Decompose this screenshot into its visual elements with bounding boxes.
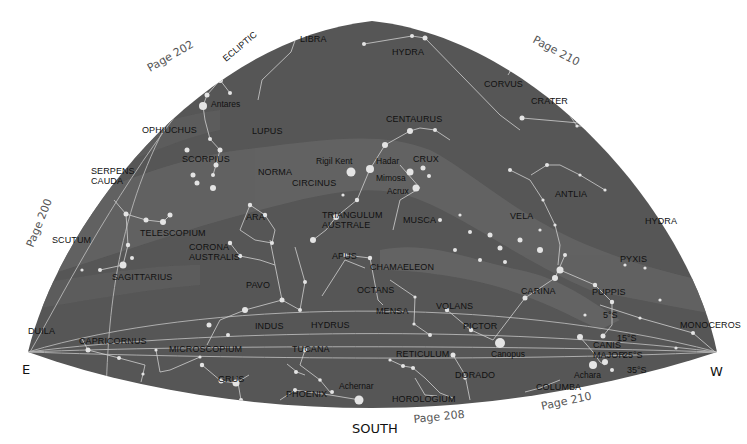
constellation-label: APUS: [332, 251, 357, 261]
direction-west-label: W: [710, 364, 723, 379]
constellation-label: TUCANA: [292, 344, 330, 354]
page-reference-label: Page 208: [413, 408, 465, 426]
constellation-label: SCORPIUS: [182, 154, 230, 164]
constellation-label: PHOENIX: [286, 389, 327, 399]
ecliptic-label: ECLIPTIC: [221, 29, 259, 63]
constellation-label: SAGITTARIUS: [112, 272, 172, 282]
star-name-label: Antares: [211, 99, 240, 109]
constellation-label: CHAMAELEON: [370, 262, 434, 272]
constellation-label: MENSA: [376, 306, 409, 316]
direction-east-label: E: [22, 362, 30, 377]
constellation-label: HYDRUS: [311, 320, 350, 330]
star-name-label: Acrux: [387, 186, 409, 196]
constellation-label: CIRCINUS: [292, 178, 336, 188]
page-reference-label: Page 200: [24, 197, 55, 249]
constellation-label: TELESCOPIUM: [140, 228, 206, 238]
constellation-label: DUILA: [28, 326, 55, 336]
constellation-label: OCTANS: [357, 285, 394, 295]
constellation-label: VOLANS: [436, 301, 473, 311]
constellation-label: MICROSCOPIUM: [169, 344, 242, 354]
star-name-label: Canopus: [491, 349, 525, 359]
star-name-label: Mimosa: [376, 173, 406, 183]
declination-label: 5°S: [603, 310, 618, 320]
constellation-label: OPHIUCHUS: [142, 125, 197, 135]
constellation-label: RETICULUM: [396, 349, 449, 359]
constellation-label: HOROLOGIUM: [392, 394, 456, 404]
constellation-label: LUPUS: [252, 126, 283, 136]
constellation-label: LIBRA: [300, 34, 327, 44]
constellation-label: SERPENS: [91, 166, 135, 176]
declination-label: 25°S: [623, 350, 643, 360]
constellation-label: PUPPIS: [592, 287, 626, 297]
constellation-label: CORONA: [189, 242, 229, 252]
constellation-label: ARA: [246, 212, 265, 222]
constellation-label: HYDRA: [645, 216, 677, 226]
constellation-label: SCUTUM: [52, 235, 91, 245]
constellation-label: CAPRICORNUS: [79, 336, 147, 346]
constellation-label: CRATER: [531, 96, 568, 106]
constellation-label: PICTOR: [463, 321, 498, 331]
constellation-label: MONOCEROS: [680, 320, 741, 330]
declination-label: 15°S: [617, 333, 637, 343]
constellation-label: ANTLIA: [555, 189, 587, 199]
declination-label: 35°S: [627, 365, 647, 375]
constellation-label: CAUDA: [91, 176, 123, 186]
page-reference-label: Page 210: [531, 33, 582, 68]
constellation-label: GRUS: [218, 374, 244, 384]
constellation-label: VELA: [510, 211, 533, 221]
constellation-label: NORMA: [258, 167, 292, 177]
constellation-label: TRIANGULUM: [322, 210, 383, 220]
star-name-label: Achernar: [339, 381, 374, 391]
constellation-label: HYDRA: [392, 47, 424, 57]
constellation-label: CENTAURUS: [386, 114, 442, 124]
star-name-label: Rigil Kent: [316, 156, 353, 166]
constellation-label: MAJOR: [593, 350, 625, 360]
constellation-label: PYXIS: [620, 254, 647, 264]
constellation-label: PAVO: [246, 280, 270, 290]
direction-south-label: SOUTH: [352, 421, 398, 436]
star-name-label: Achara: [574, 370, 601, 380]
constellation-label: AUSTRALE: [322, 220, 370, 230]
star-chart: LIBRAHYDRACORVUSCRATEROPHIUCHUSLUPUSCENT…: [0, 0, 747, 444]
constellation-label: INDUS: [255, 321, 284, 331]
constellation-label: CORVUS: [484, 79, 523, 89]
constellation-label: MUSCA: [403, 215, 436, 225]
constellation-label: AUSTRALIS: [189, 252, 240, 262]
constellation-label: CARINA: [521, 286, 556, 296]
constellation-label: CRUX: [413, 154, 439, 164]
page-reference-label: Page 202: [145, 38, 196, 75]
constellation-label: COLUMBA: [536, 382, 581, 392]
star-name-label: Hadar: [376, 156, 399, 166]
constellation-label: DORADO: [455, 370, 495, 380]
